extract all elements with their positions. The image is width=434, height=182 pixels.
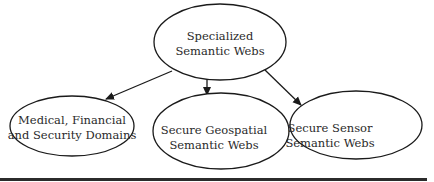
node-secure-sensor: Secure Sensor Semantic Webs xyxy=(285,91,422,159)
node-label-line1: Medical, Financial xyxy=(18,113,126,127)
node-medical-financial-security: Medical, Financial and Security Domains xyxy=(8,96,137,156)
semantic-web-diagram: Specialized Semantic Webs Medical, Finan… xyxy=(0,0,434,182)
node-label-line2: Semantic Webs xyxy=(175,44,264,58)
node-specialized-semantic-webs: Specialized Semantic Webs xyxy=(154,4,286,80)
node-label-line2: Semantic Webs xyxy=(285,136,374,150)
node-label-line2: and Security Domains xyxy=(8,128,137,142)
node-label-line1: Secure Sensor xyxy=(288,121,373,135)
node-label-line1: Secure Geospatial xyxy=(161,123,268,137)
node-label-line1: Specialized xyxy=(187,29,254,43)
node-label-line2: Semantic Webs xyxy=(169,138,258,152)
node-secure-geospatial: Secure Geospatial Semantic Webs xyxy=(153,93,289,169)
edge-root-to-sensor xyxy=(265,70,301,105)
edge-root-to-medical xyxy=(106,71,172,99)
bottom-rule xyxy=(0,178,427,181)
